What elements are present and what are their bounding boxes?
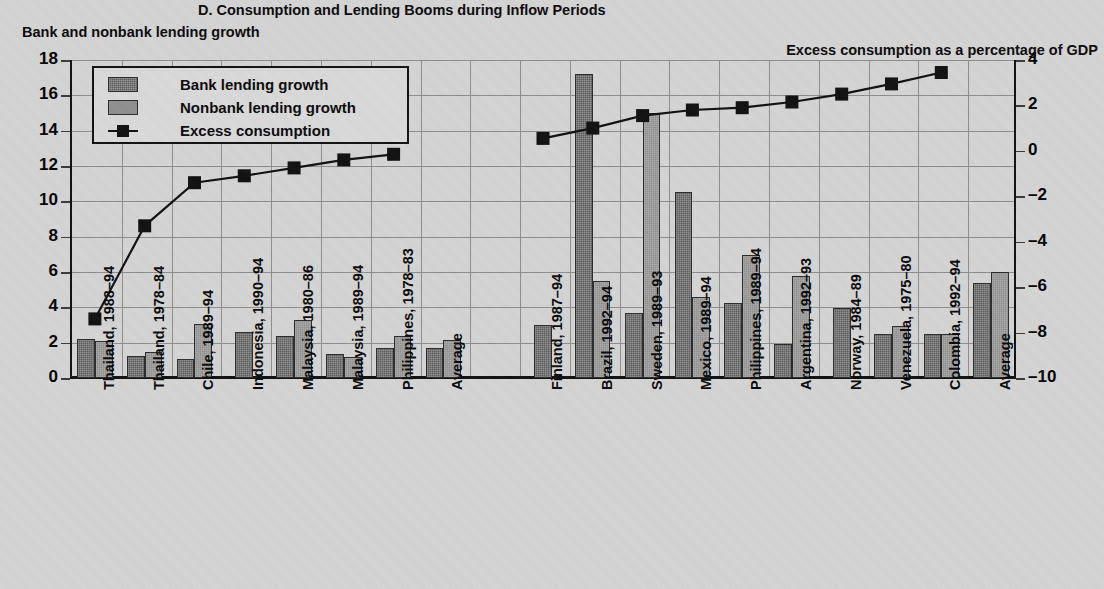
- y-axis-tick-mark-left: [61, 307, 70, 309]
- chart-legend: Bank lending growth Nonbank lending grow…: [92, 66, 409, 144]
- y-axis-tick-mark-right: [1016, 287, 1025, 289]
- y-axis-tick-left: 16: [12, 84, 58, 104]
- y-axis-tick-left: 4: [12, 296, 58, 316]
- x-axis-category-label: Average: [449, 333, 465, 390]
- y-axis-tick-right: 4: [1028, 49, 1074, 69]
- page-title: D. Consumption and Lending Booms during …: [198, 2, 606, 18]
- y-axis-tick-left: 10: [12, 190, 58, 210]
- bar-bank-lending: [625, 313, 643, 378]
- legend-item-bank: Bank lending growth: [94, 73, 407, 96]
- y-axis-tick-left: 2: [12, 332, 58, 352]
- bar-bank-lending: [675, 192, 693, 378]
- y-axis-tick-mark-left: [61, 343, 70, 345]
- y-axis-tick-mark-left: [61, 237, 70, 239]
- y-axis-tick-mark-right: [1016, 196, 1025, 198]
- y-axis-tick-left: 6: [12, 261, 58, 281]
- bar-bank-lending: [177, 359, 195, 378]
- left-axis-title: Bank and nonbank lending growth: [22, 24, 260, 40]
- legend-item-excess: Excess consumption: [94, 119, 407, 142]
- y-axis-tick-left: 8: [12, 226, 58, 246]
- chart-figure: D. Consumption and Lending Booms during …: [0, 0, 1104, 589]
- y-axis-tick-mark-right: [1016, 333, 1025, 335]
- legend-label: Excess consumption: [180, 122, 330, 139]
- y-axis-tick-mark-left: [61, 378, 70, 380]
- x-axis-category-label: Mexico, 1989–94: [698, 276, 714, 390]
- x-axis-category-label: Philippines, 1989–94: [748, 248, 764, 390]
- y-axis-tick-left: 18: [12, 49, 58, 69]
- x-axis-category-label: Colombia, 1992–94: [947, 259, 963, 390]
- bar-bank-lending: [326, 354, 344, 378]
- x-axis-category-label: Indonesia, 1990–94: [250, 258, 266, 390]
- nonbank-swatch-icon: [108, 100, 138, 115]
- bar-bank-lending: [426, 348, 444, 378]
- y-axis-tick-mark-left: [61, 272, 70, 274]
- legend-label: Nonbank lending growth: [180, 99, 356, 116]
- y-axis-tick-right: –4: [1028, 231, 1074, 251]
- bar-bank-lending: [973, 283, 991, 378]
- x-axis-category-label: Thailand, 1988–94: [101, 266, 117, 390]
- y-axis-tick-mark-right: [1016, 151, 1025, 153]
- x-axis-category-label: Argentina, 1992–93: [798, 258, 814, 390]
- y-axis-tick-left: 0: [12, 367, 58, 387]
- y-axis-tick-right: –10: [1028, 367, 1074, 387]
- bar-bank-lending: [77, 339, 95, 378]
- x-axis-category-label: Sweden, 1989–93: [649, 271, 665, 390]
- y-axis-tick-right: 0: [1028, 140, 1074, 160]
- y-axis-tick-right: –6: [1028, 276, 1074, 296]
- bank-swatch-icon: [108, 77, 138, 92]
- bar-bank-lending: [575, 74, 593, 378]
- y-axis-tick-mark-left: [61, 95, 70, 97]
- legend-item-nonbank: Nonbank lending growth: [94, 96, 407, 119]
- y-axis-tick-mark-right: [1016, 378, 1025, 380]
- bar-bank-lending: [874, 334, 892, 378]
- bar-bank-lending: [276, 336, 294, 378]
- x-axis-category-label: Philippines, 1978–83: [400, 248, 416, 390]
- x-axis-category-label: Brazil, 1992–94: [599, 286, 615, 390]
- y-axis-tick-right: 2: [1028, 94, 1074, 114]
- y-axis-tick-mark-right: [1016, 60, 1025, 62]
- y-axis-tick-mark-left: [61, 201, 70, 203]
- bar-bank-lending: [924, 334, 942, 378]
- y-axis-tick-mark-left: [61, 60, 70, 62]
- bar-bank-lending: [127, 356, 145, 378]
- x-axis-category-label: Average: [997, 333, 1013, 390]
- y-axis-tick-right: –8: [1028, 322, 1074, 342]
- x-axis-category-label: Thailand, 1978–84: [151, 266, 167, 390]
- bar-bank-lending: [774, 344, 792, 378]
- legend-label: Bank lending growth: [180, 76, 328, 93]
- x-axis-category-label: Norway, 1984–89: [848, 274, 864, 390]
- y-axis-tick-mark-right: [1016, 105, 1025, 107]
- x-axis-category-label: Finland, 1987–94: [549, 274, 565, 390]
- line-marker-icon: [108, 123, 138, 138]
- bar-bank-lending: [724, 303, 742, 378]
- x-axis-category-label: Chile, 1989–94: [200, 290, 216, 390]
- y-axis-tick-right: –2: [1028, 185, 1074, 205]
- x-axis-category-label: Malaysia, 1980–86: [300, 265, 316, 390]
- bar-bank-lending: [376, 348, 394, 378]
- y-axis-tick-left: 12: [12, 155, 58, 175]
- y-axis-tick-mark-right: [1016, 242, 1025, 244]
- x-axis-category-label: Venezuela, 1975–80: [898, 255, 914, 390]
- y-axis-tick-mark-left: [61, 166, 70, 168]
- x-axis-category-label: Malaysia, 1989–94: [350, 265, 366, 390]
- y-axis-tick-mark-left: [61, 131, 70, 133]
- y-axis-tick-left: 14: [12, 120, 58, 140]
